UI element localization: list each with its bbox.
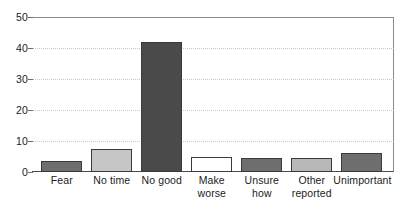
bar-unimportant	[341, 153, 382, 172]
y-tick-label: 50	[0, 12, 28, 22]
y-axis: 01020304050	[0, 0, 28, 209]
x-tick-label: Unsure how	[233, 174, 290, 199]
x-axis: FearNo timeNo goodMake worseUnsure howOt…	[33, 174, 394, 208]
y-tick-label: 20	[0, 105, 28, 115]
y-tick-label: 30	[0, 74, 28, 84]
x-tick-label: Other reported	[283, 174, 340, 199]
bar-make-worse	[191, 157, 232, 173]
y-tick-mark	[28, 141, 33, 142]
bar-no-time	[91, 149, 132, 172]
y-tick-label: 10	[0, 136, 28, 146]
y-tick-label: 0	[0, 167, 28, 177]
bar-fear	[41, 161, 82, 172]
y-tick-mark	[28, 110, 33, 111]
y-tick-mark	[28, 17, 33, 18]
x-tick-label: Fear	[33, 174, 90, 187]
bar-unsure-how	[241, 158, 282, 172]
x-tick-label: Make worse	[183, 174, 240, 199]
y-tick-label: 40	[0, 43, 28, 53]
bar-no-good	[141, 42, 182, 172]
y-tick-mark	[28, 172, 33, 173]
x-tick-label: No good	[133, 174, 190, 187]
bars-container	[33, 17, 394, 172]
y-tick-mark	[28, 79, 33, 80]
bar-chart: 01020304050 FearNo timeNo goodMake worse…	[0, 0, 405, 209]
y-tick-mark	[28, 48, 33, 49]
x-tick-label: No time	[83, 174, 140, 187]
bar-other-reported	[291, 158, 332, 172]
x-tick-label: Unimportant	[333, 174, 390, 187]
